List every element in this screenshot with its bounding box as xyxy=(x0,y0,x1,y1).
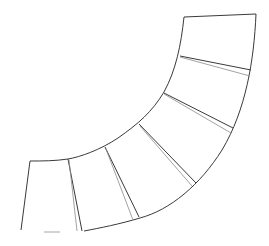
divider-2 xyxy=(164,93,233,128)
divider-1 xyxy=(180,56,251,70)
divider-2-offset xyxy=(164,94,231,133)
divider-4-offset xyxy=(106,149,133,220)
inner-arc xyxy=(30,17,184,161)
divider-3-offset xyxy=(140,126,192,186)
divider-5-offset xyxy=(69,160,77,231)
elbow-drawing xyxy=(0,0,269,246)
divider-3 xyxy=(139,124,196,183)
left-edge xyxy=(21,161,30,230)
outer-arc xyxy=(84,14,256,231)
top-edge xyxy=(184,14,256,17)
divider-4 xyxy=(105,147,139,217)
elbow-diagram xyxy=(0,0,269,246)
divider-1-offset xyxy=(180,57,250,76)
